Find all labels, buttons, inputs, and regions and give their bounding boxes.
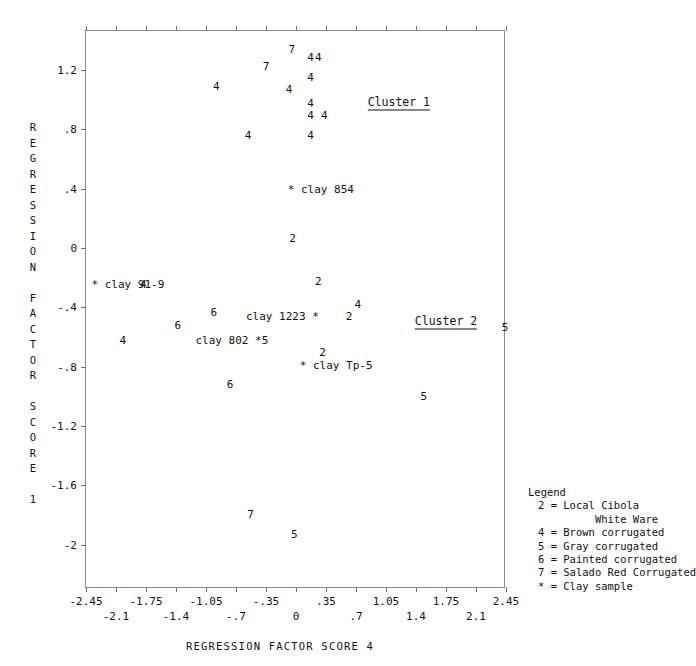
legend-title: Legend bbox=[528, 486, 696, 499]
x-axis-tick-label: 2.1 bbox=[466, 611, 486, 622]
y-axis-tick bbox=[81, 189, 86, 190]
x-axis-tick bbox=[146, 587, 147, 592]
y-axis-tick bbox=[81, 248, 86, 249]
x-axis-tick-top bbox=[116, 26, 117, 31]
y-axis-tick bbox=[81, 485, 86, 486]
x-axis-tick-label: .35 bbox=[316, 596, 336, 607]
x-axis-tick-top bbox=[176, 26, 177, 31]
y-axis-title-char bbox=[26, 275, 40, 291]
y-axis-tick-label: 1.2 bbox=[57, 65, 77, 76]
y-axis-tick-label: -1.2 bbox=[51, 421, 78, 432]
x-axis-tick-label: -1.75 bbox=[129, 596, 162, 607]
y-axis-title-char: R bbox=[26, 446, 40, 462]
x-axis-tick bbox=[356, 587, 357, 592]
x-axis-tick-top bbox=[236, 26, 237, 31]
cluster-annotation: Cluster 2 bbox=[415, 315, 477, 330]
data-point: 5 bbox=[502, 321, 509, 332]
x-axis-tick-top bbox=[296, 26, 297, 31]
y-axis-tick bbox=[81, 367, 86, 368]
data-point: 6 bbox=[227, 379, 234, 390]
data-point: 2 bbox=[315, 275, 322, 286]
y-axis-title-char: O bbox=[26, 353, 40, 369]
x-axis-tick bbox=[236, 587, 237, 592]
legend-entry: 4 = Brown corrugated bbox=[528, 526, 696, 539]
data-point: 2 bbox=[319, 346, 326, 357]
data-point: 5 bbox=[291, 529, 298, 540]
x-axis-tick bbox=[86, 587, 87, 592]
x-axis-tick-label: -1.05 bbox=[189, 596, 222, 607]
clay-sample-annotation: clay 1223 * bbox=[246, 310, 319, 323]
y-axis-tick-label: -.4 bbox=[57, 302, 77, 313]
clay-sample-annotation: clay 802 *5 bbox=[195, 333, 268, 346]
y-axis-tick-label: -1.6 bbox=[51, 480, 78, 491]
scatter-plot-panel: 1.2.8.40-.4-.8-1.2-1.6-2-2.45-1.75-1.05-… bbox=[85, 30, 505, 588]
x-axis-tick-top bbox=[386, 26, 387, 31]
y-axis-title-char: R bbox=[26, 167, 40, 183]
y-axis-title-char: O bbox=[26, 244, 40, 260]
y-axis-title-char: E bbox=[26, 182, 40, 198]
y-axis-title-char: F bbox=[26, 291, 40, 307]
data-point: 4 bbox=[307, 51, 314, 62]
y-axis-tick bbox=[81, 70, 86, 71]
data-point: 4 bbox=[321, 109, 328, 120]
x-axis-tick-label: -2.1 bbox=[103, 611, 130, 622]
legend: Legend2 = Local Cibola White Ware4 = Bro… bbox=[528, 486, 696, 593]
x-axis-tick-label: 1.75 bbox=[433, 596, 460, 607]
legend-entry: 6 = Painted corrugated bbox=[528, 553, 696, 566]
data-point: 7 bbox=[247, 508, 254, 519]
x-axis-tick bbox=[506, 587, 507, 592]
x-axis-tick-top bbox=[356, 26, 357, 31]
data-point: 7 bbox=[288, 44, 295, 55]
x-axis-title: REGRESSION FACTOR SCORE 4 bbox=[0, 640, 560, 652]
y-axis-title-char: R bbox=[26, 368, 40, 384]
y-axis-tick-label: .8 bbox=[64, 124, 77, 135]
x-axis-tick bbox=[296, 587, 297, 592]
x-axis-tick bbox=[386, 587, 387, 592]
clay-sample-annotation: * clay Tp-5 bbox=[300, 359, 373, 372]
legend-entry: 5 = Gray corrugated bbox=[528, 540, 696, 553]
x-axis-tick-label: -1.4 bbox=[163, 611, 190, 622]
legend-entry: 7 = Salado Red Corrugated bbox=[528, 566, 696, 579]
data-point: 4 bbox=[354, 299, 361, 310]
data-point: 4 bbox=[307, 97, 314, 108]
y-axis-title-char bbox=[26, 477, 40, 493]
x-axis-tick-label: .7 bbox=[349, 611, 362, 622]
x-axis-tick-top bbox=[506, 26, 507, 31]
x-axis-tick-top bbox=[416, 26, 417, 31]
data-point: 4 bbox=[245, 130, 252, 141]
x-axis-tick bbox=[476, 587, 477, 592]
y-axis-tick-label: 0 bbox=[70, 243, 77, 254]
x-axis-tick-top bbox=[266, 26, 267, 31]
data-point: 2 bbox=[346, 311, 353, 322]
x-axis-tick-top bbox=[206, 26, 207, 31]
y-axis-tick-label: -2 bbox=[64, 539, 77, 550]
x-axis-tick bbox=[266, 587, 267, 592]
data-point: 7 bbox=[263, 60, 270, 71]
data-point: 4 bbox=[286, 84, 293, 95]
y-axis-tick bbox=[81, 129, 86, 130]
x-axis-tick bbox=[176, 587, 177, 592]
data-point: 4 bbox=[307, 130, 314, 141]
y-axis-title-char: S bbox=[26, 198, 40, 214]
legend-entry: * = Clay sample bbox=[528, 580, 696, 593]
x-axis-tick-top bbox=[146, 26, 147, 31]
y-axis-title-char: R bbox=[26, 120, 40, 136]
x-axis-tick-top bbox=[86, 26, 87, 31]
x-axis-tick-label: 1.05 bbox=[373, 596, 400, 607]
x-axis-tick-label: -2.45 bbox=[69, 596, 102, 607]
y-axis-title-char: N bbox=[26, 260, 40, 276]
y-axis-title-char: A bbox=[26, 306, 40, 322]
y-axis-title-char: S bbox=[26, 399, 40, 415]
data-point: 5 bbox=[420, 391, 427, 402]
y-axis-title-char: E bbox=[26, 461, 40, 477]
x-axis-tick-label: 1.4 bbox=[406, 611, 426, 622]
legend-entry: White Ware bbox=[528, 513, 696, 526]
y-axis-title-char: T bbox=[26, 337, 40, 353]
y-axis-tick bbox=[81, 545, 86, 546]
data-point: 6 bbox=[174, 320, 181, 331]
y-axis-tick-label: .4 bbox=[64, 183, 77, 194]
x-axis-tick bbox=[116, 587, 117, 592]
y-axis-title-char: G bbox=[26, 151, 40, 167]
y-axis-title-char: I bbox=[26, 229, 40, 245]
data-point: 4 bbox=[120, 334, 127, 345]
